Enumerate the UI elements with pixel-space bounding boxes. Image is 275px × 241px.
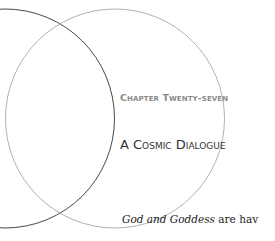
light-circle [6,9,225,228]
overlapping-circles-ornament [0,0,275,241]
chapter-number: Chapter Twenty-seven [120,92,228,103]
body-text-rest: are hav [215,213,258,225]
body-paragraph: God and Goddess are hav [122,213,258,225]
dark-circle [0,9,115,228]
chapter-title: A Cosmic Dialogue [120,137,226,152]
body-emphasis: God and Goddess [122,213,215,225]
